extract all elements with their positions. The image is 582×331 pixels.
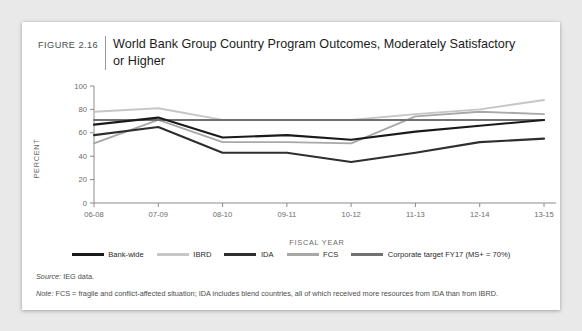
y-tick-label: 100	[74, 82, 87, 91]
x-tick-label: 10-12	[341, 210, 360, 219]
y-tick-label: 0	[83, 199, 87, 208]
y-tick-label: 40	[79, 152, 87, 161]
legend-item[interactable]: Bank-wide	[72, 250, 144, 259]
legend-swatch	[157, 253, 189, 256]
legend-label: Corporate target FY17 (MS+ = 70%)	[388, 250, 510, 259]
legend-item[interactable]: Corporate target FY17 (MS+ = 70%)	[351, 250, 510, 259]
figure-title: World Bank Group Country Program Outcome…	[113, 36, 521, 70]
legend-label: FCS	[323, 250, 338, 259]
header-divider	[105, 36, 106, 70]
legend-label: IBRD	[193, 250, 211, 259]
x-tick-label: 12-14	[470, 210, 489, 219]
legend-swatch	[287, 253, 319, 256]
legend-label: IDA	[261, 250, 274, 259]
x-tick-label: 08-10	[213, 210, 232, 219]
y-tick-label: 60	[79, 128, 87, 137]
figure-note: Note: FCS = fragile and conflict-affecte…	[36, 289, 548, 299]
x-tick-label: 06-08	[84, 210, 103, 219]
chart-legend: Bank-wideIBRDIDAFCSCorporate target FY17…	[22, 250, 560, 259]
figure-number: FIGURE 2.16	[38, 36, 98, 50]
screenshot-root: FIGURE 2.16 World Bank Group Country Pro…	[0, 0, 582, 331]
source-label: Source:	[36, 272, 61, 281]
x-axis-title: FISCAL YEAR	[48, 238, 582, 247]
figure-header: FIGURE 2.16 World Bank Group Country Pro…	[38, 36, 542, 70]
line-chart-svg: 02040608010006-0807-0908-1009-1110-1211-…	[22, 80, 560, 248]
y-tick-label: 20	[79, 175, 87, 184]
source-value: IEG data.	[61, 272, 94, 281]
legend-swatch	[72, 253, 104, 256]
legend-item[interactable]: IBRD	[157, 250, 212, 259]
source-note: Source: IEG data.	[36, 272, 548, 282]
figure-card: FIGURE 2.16 World Bank Group Country Pro…	[22, 22, 560, 310]
x-tick-label: 13-15	[534, 210, 553, 219]
x-tick-label: 07-09	[149, 210, 168, 219]
legend-item[interactable]: IDA	[224, 250, 273, 259]
note-value: FCS = fragile and conflict-affected situ…	[53, 289, 498, 298]
legend-swatch	[351, 253, 383, 256]
chart-plot-area: 02040608010006-0807-0908-1009-1110-1211-…	[22, 80, 560, 248]
y-tick-label: 80	[79, 105, 87, 114]
legend-swatch	[224, 253, 256, 256]
legend-label: Bank-wide	[108, 250, 143, 259]
note-label: Note:	[36, 289, 53, 298]
series-line	[94, 127, 544, 162]
x-tick-label: 09-11	[277, 210, 296, 219]
series-line	[94, 100, 544, 120]
y-axis-title: PERCENT	[32, 129, 41, 189]
x-tick-label: 11-13	[406, 210, 425, 219]
legend-item[interactable]: FCS	[287, 250, 339, 259]
